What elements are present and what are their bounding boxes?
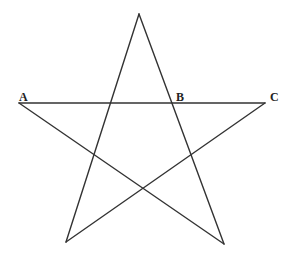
label-c: C [270, 91, 279, 103]
segment-top-bottom_right [139, 14, 224, 244]
label-b: B [176, 91, 184, 103]
pentagram-diagram [0, 0, 293, 253]
star-segments [19, 14, 265, 244]
label-a: A [19, 91, 28, 103]
segment-top-bottom_left [66, 14, 139, 242]
segment-left-bottom_right [19, 103, 224, 244]
segment-right-bottom_left [66, 103, 265, 242]
